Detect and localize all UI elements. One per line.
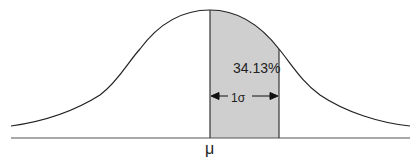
mean-label: μ [205, 140, 214, 158]
percentage-label: 34.13% [233, 60, 280, 76]
sigma-label: 1σ [230, 91, 246, 105]
normal-curve-diagram [0, 0, 416, 160]
